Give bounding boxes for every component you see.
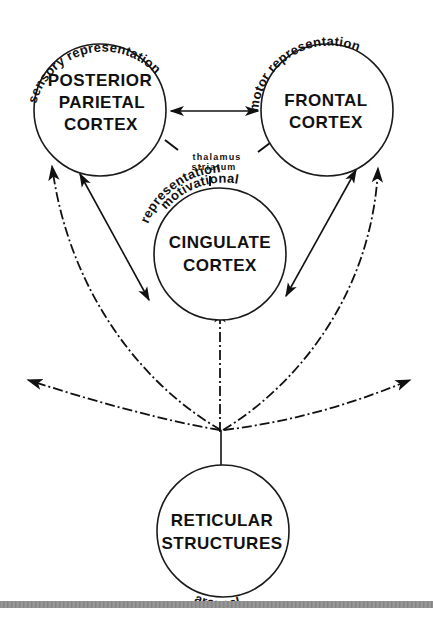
node-label-line-2: CORTEX — [289, 113, 363, 132]
node-label-line-2: STRUCTURES — [161, 534, 282, 553]
node-label-line-1: POSTERIOR — [48, 71, 153, 90]
node-label-line-1: RETICULAR — [171, 511, 274, 530]
node-cingulate: CINGULATE CORTEX motivational representa… — [137, 160, 286, 320]
node-circle — [154, 188, 286, 320]
tick-to-parietal — [165, 140, 178, 150]
tick-to-frontal — [258, 143, 270, 152]
edge-frontal-cingulate — [286, 170, 356, 296]
edge-reticular-to-left-diffuse — [28, 380, 220, 430]
edge-parietal-cingulate — [80, 174, 149, 300]
node-label-line-3: CORTEX — [64, 115, 138, 134]
node-label-line-1: CINGULATE — [169, 233, 271, 252]
node-frontal: FRONTAL CORTEX motor representation — [246, 34, 393, 176]
node-label-line-1: FRONTAL — [284, 91, 367, 110]
node-reticular: RETICULAR STRUCTURES arousal — [157, 465, 289, 611]
node-label-line-2: PARIETAL — [59, 93, 145, 112]
node-circle — [157, 465, 289, 597]
brain-systems-diagram: thalamus striatum POSTERIOR PARIETAL COR… — [0, 0, 433, 618]
node-label-line-2: CORTEX — [183, 256, 257, 275]
bottom-rule — [0, 601, 433, 608]
edge-reticular-to-right-diffuse — [224, 380, 410, 430]
node-posterior-parietal: POSTERIOR PARIETAL CORTEX sensory repres… — [24, 40, 166, 176]
